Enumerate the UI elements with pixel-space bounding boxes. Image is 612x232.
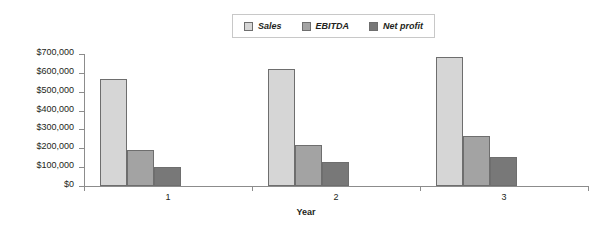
bar-ebitda-year-2[interactable] bbox=[295, 145, 322, 186]
bar-sales-year-2[interactable] bbox=[268, 69, 295, 186]
bar-ebitda-year-1[interactable] bbox=[127, 150, 154, 186]
x-axis-tick-label: 1 bbox=[148, 193, 188, 202]
x-axis-tick-mark bbox=[252, 186, 253, 191]
bar-chart: SalesEBITDANet profit $700,000$600,000$5… bbox=[0, 0, 612, 232]
plot-area bbox=[84, 54, 588, 186]
legend-swatch-icon bbox=[244, 22, 253, 31]
legend-item[interactable]: Sales bbox=[244, 22, 282, 31]
chart-legend: SalesEBITDANet profit bbox=[232, 14, 435, 38]
y-axis-tick-label: $600,000 bbox=[36, 67, 74, 76]
y-axis-tick-label: $400,000 bbox=[36, 105, 74, 114]
x-axis-tick-mark bbox=[420, 186, 421, 191]
legend-item[interactable]: Net profit bbox=[369, 22, 423, 31]
bar-sales-year-3[interactable] bbox=[436, 57, 463, 186]
bar-ebitda-year-3[interactable] bbox=[463, 136, 490, 186]
y-axis-tick-label: $500,000 bbox=[36, 86, 74, 95]
x-axis-tick-label: 2 bbox=[316, 193, 356, 202]
legend-item-label: Sales bbox=[258, 22, 282, 31]
y-axis-tick-label: $100,000 bbox=[36, 161, 74, 170]
bar-sales-year-1[interactable] bbox=[100, 79, 127, 186]
y-axis-tick-label: $300,000 bbox=[36, 123, 74, 132]
y-axis-tick-label: $700,000 bbox=[36, 48, 74, 57]
legend-item-label: EBITDA bbox=[316, 22, 350, 31]
x-axis-title: Year bbox=[0, 208, 612, 217]
bar-net-profit-year-1[interactable] bbox=[154, 167, 181, 186]
x-axis-tick-mark bbox=[588, 186, 589, 191]
y-axis-tick-label: $0 bbox=[64, 180, 74, 189]
x-axis-tick-mark bbox=[84, 186, 85, 191]
legend-swatch-icon bbox=[369, 22, 378, 31]
bar-net-profit-year-2[interactable] bbox=[322, 162, 349, 187]
legend-item-label: Net profit bbox=[383, 22, 423, 31]
legend-swatch-icon bbox=[302, 22, 311, 31]
x-axis-line bbox=[84, 186, 588, 187]
legend-item[interactable]: EBITDA bbox=[302, 22, 350, 31]
x-axis-tick-label: 3 bbox=[484, 193, 524, 202]
bar-net-profit-year-3[interactable] bbox=[490, 157, 517, 186]
y-axis-tick-label: $200,000 bbox=[36, 142, 74, 151]
